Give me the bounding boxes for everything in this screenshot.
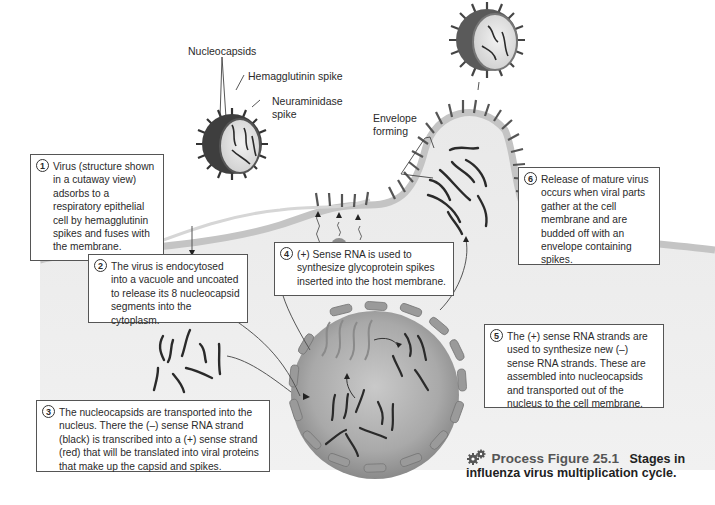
step-text: The nucleocapsids are transported into t… [43, 406, 263, 473]
step-text: Release of mature virus occurs when vira… [525, 173, 653, 267]
step-text: (+) Sense RNA is used to synthesize glyc… [281, 248, 447, 288]
step-text: The (+) sense RNA strands are used to sy… [491, 330, 657, 410]
step-5-callout: 5 The (+) sense RNA strands are used to … [484, 324, 664, 408]
step-number: 5 [490, 329, 503, 342]
infecting-virus [196, 108, 268, 180]
step-number: 2 [94, 259, 107, 272]
figure-number: Process Figure 25.1 [491, 451, 619, 466]
label-hemagglutinin-spike: Hemagglutinin spike [248, 70, 343, 82]
figure-title-part2: influenza virus multiplication cycle. [466, 466, 676, 480]
step-1-callout: 1 Virus (structure shown in a cutaway vi… [30, 154, 164, 261]
figure-caption: Process Figure 25.1 Stages in influenza … [466, 449, 715, 480]
step-number: 6 [524, 172, 537, 185]
step-number: 1 [36, 159, 49, 172]
released-virus [449, 2, 525, 78]
label-nucleocapsids: Nucleocapsids [188, 45, 256, 57]
step-4-callout: 4 (+) Sense RNA is used to synthesize gl… [274, 242, 454, 296]
figure-title-part1: Stages in [629, 452, 685, 466]
gears-icon [466, 449, 488, 465]
step-2-callout: 2 The virus is endocytosed into a vacuol… [88, 254, 248, 323]
step-number: 3 [42, 405, 55, 418]
step-3-callout: 3 The nucleocapsids are transported into… [36, 400, 270, 472]
step-text: Virus (structure shown in a cutaway view… [37, 160, 157, 254]
step-text: The virus is endocytosed into a vacuole … [95, 260, 241, 327]
label-neuraminidase-line2: spike [272, 108, 297, 120]
label-envelope-line2: forming [373, 125, 408, 137]
influenza-cycle-diagram: Nucleocapsids Hemagglutinin spike Neuram… [0, 0, 715, 505]
label-neuraminidase-line1: Neuraminidase [272, 95, 343, 107]
step-number: 4 [280, 247, 293, 260]
label-envelope-line1: Envelope [373, 112, 417, 124]
step-6-callout: 6 Release of mature virus occurs when vi… [518, 167, 660, 265]
